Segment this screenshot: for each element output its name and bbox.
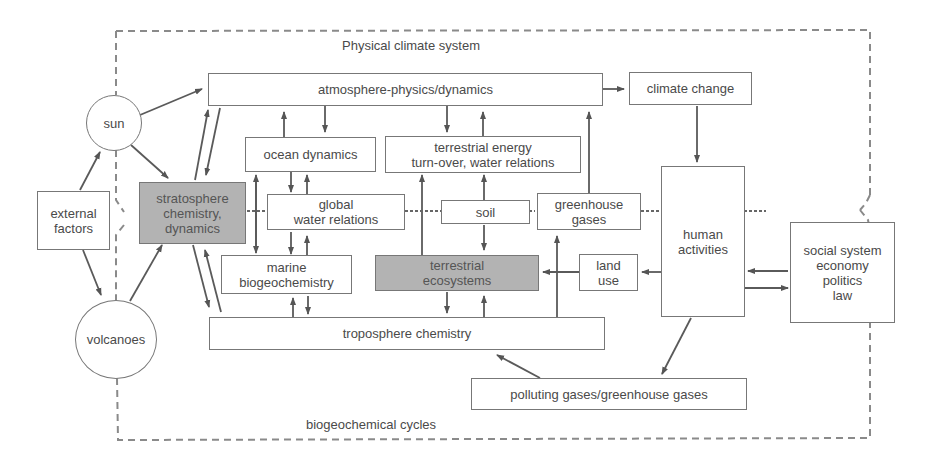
node-soil-label: soil (476, 205, 496, 220)
node-climate-change: climate change (629, 72, 752, 105)
node-greenhouse-gases-label: greenhouse gases (555, 197, 624, 227)
node-social-system: social system economy politics law (790, 222, 895, 323)
node-marine-biogeochemistry: marine biogeochemistry (221, 255, 352, 294)
node-human-activities-label: human activities (678, 227, 728, 257)
node-land-use-label: land use (596, 258, 621, 288)
node-sun-label: sun (104, 116, 125, 131)
node-volcanoes: volcanoes (75, 300, 157, 379)
region-label-biogeochemical: biogeochemical cycles (306, 417, 436, 432)
node-stratosphere: stratosphere chemistry, dynamics (139, 182, 246, 244)
node-terrestrial-energy-label: terrestrial energy turn-over, water rela… (411, 140, 554, 170)
node-troposphere-label: troposphere chemistry (343, 326, 472, 341)
node-global-water: global water relations (267, 194, 405, 230)
node-polluting-gases: polluting gases/greenhouse gases (471, 378, 747, 410)
node-atmosphere: atmosphere-physics/dynamics (208, 73, 603, 106)
node-ocean-dynamics: ocean dynamics (245, 137, 376, 172)
region-label-physical-climate: Physical climate system (342, 38, 480, 53)
node-global-water-label: global water relations (294, 197, 379, 227)
node-ocean-dynamics-label: ocean dynamics (264, 147, 358, 162)
node-volcanoes-label: volcanoes (87, 332, 146, 347)
node-external-factors-label: external factors (50, 206, 96, 236)
node-marine-biogeochemistry-label: marine biogeochemistry (239, 260, 334, 290)
node-climate-change-label: climate change (647, 81, 734, 96)
node-terrestrial-energy: terrestrial energy turn-over, water rela… (385, 136, 581, 173)
node-land-use: land use (579, 254, 638, 291)
node-social-system-label: social system economy politics law (803, 243, 881, 303)
node-sun: sun (86, 95, 142, 151)
node-troposphere: troposphere chemistry (209, 317, 605, 350)
node-stratosphere-label: stratosphere chemistry, dynamics (156, 191, 228, 236)
node-greenhouse-gases: greenhouse gases (537, 193, 641, 230)
node-terrestrial-ecosystems-label: terrestrial ecosystems (423, 258, 492, 288)
node-external-factors: external factors (37, 191, 110, 250)
node-terrestrial-ecosystems: terrestrial ecosystems (375, 255, 539, 291)
node-atmosphere-label: atmosphere-physics/dynamics (318, 82, 493, 97)
node-soil: soil (441, 200, 530, 224)
node-polluting-gases-label: polluting gases/greenhouse gases (510, 387, 707, 402)
node-human-activities: human activities (661, 166, 745, 317)
